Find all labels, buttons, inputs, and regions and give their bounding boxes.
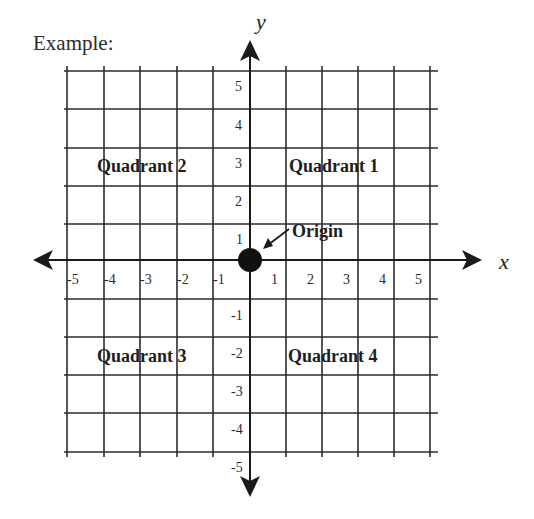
x-tick-label: -1 (213, 273, 225, 287)
origin-dot (238, 248, 262, 272)
x-tick-label: 1 (271, 273, 278, 287)
y-tick-label: -3 (231, 385, 243, 399)
quadrant-1-label: Quadrant 1 (289, 157, 379, 175)
x-tick-label: 5 (415, 273, 422, 287)
x-tick-label: 3 (343, 273, 350, 287)
y-tick-label: -2 (231, 347, 243, 361)
x-tick-label: -2 (177, 273, 189, 287)
quadrant-3-label: Quadrant 3 (97, 347, 187, 365)
x-tick-label: -4 (104, 273, 116, 287)
coordinate-plane-figure: Example: y x -5 -4 -3 -2 -1 1 2 3 4 5 5 … (0, 0, 534, 519)
y-tick-label: 2 (235, 195, 242, 209)
x-axis-label: x (499, 251, 509, 273)
y-tick-label: -4 (231, 423, 243, 437)
x-tick-label: 4 (379, 273, 386, 287)
example-label: Example: (33, 33, 113, 54)
y-axis-label: y (256, 11, 266, 33)
quadrant-2-label: Quadrant 2 (97, 157, 187, 175)
y-tick-label: 3 (235, 157, 242, 171)
quadrant-4-label: Quadrant 4 (288, 347, 378, 365)
x-tick-label: 2 (307, 273, 314, 287)
y-tick-label: -1 (231, 309, 243, 323)
y-tick-label: 5 (235, 80, 242, 94)
x-tick-label: -5 (67, 273, 79, 287)
y-tick-label: -5 (231, 461, 243, 475)
origin-pointer-arrow-icon (263, 229, 289, 249)
y-tick-label: 4 (235, 119, 242, 133)
y-tick-label: 1 (236, 233, 243, 247)
origin-label: Origin (292, 222, 343, 240)
x-tick-label: -3 (140, 273, 152, 287)
coordinate-grid (0, 0, 534, 519)
